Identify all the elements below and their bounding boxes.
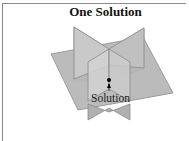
solution-point — [107, 78, 111, 82]
vertical-planes-lower — [88, 104, 130, 120]
solution-label: Solution — [91, 92, 130, 104]
three-planes-diagram — [0, 0, 189, 141]
